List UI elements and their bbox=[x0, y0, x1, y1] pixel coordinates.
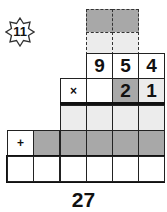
multiplier-digit bbox=[86, 78, 113, 104]
partial-product-cell[interactable] bbox=[138, 130, 165, 156]
partial-product-cell[interactable] bbox=[60, 130, 87, 156]
carry-cell[interactable] bbox=[112, 32, 139, 55]
partial-product-cell[interactable] bbox=[60, 105, 87, 131]
partial-product-cell[interactable] bbox=[86, 105, 113, 131]
partial-product-cell[interactable] bbox=[112, 105, 139, 131]
multiplicand-digit: 9 bbox=[86, 53, 113, 79]
result-label: 27 bbox=[0, 188, 167, 212]
answer-cell[interactable] bbox=[7, 156, 34, 182]
partial-product-cell[interactable] bbox=[112, 130, 139, 156]
answer-cell[interactable] bbox=[86, 156, 113, 182]
partial-product-cell[interactable] bbox=[33, 130, 60, 156]
answer-cell[interactable] bbox=[112, 156, 139, 182]
puzzle-number: 11 bbox=[5, 17, 35, 47]
add-operator: + bbox=[7, 130, 34, 156]
puzzle-number-badge: 11 bbox=[5, 17, 35, 47]
multiplicand-digit: 4 bbox=[138, 53, 165, 79]
multiply-operator: × bbox=[60, 78, 87, 104]
answer-cell[interactable] bbox=[60, 156, 87, 182]
multiplier-digit: 2 bbox=[112, 78, 139, 104]
multiplicand-digit: 5 bbox=[112, 53, 139, 79]
multiplier-digit: 1 bbox=[138, 78, 165, 104]
partial-product-cell[interactable] bbox=[138, 105, 165, 131]
partial-product-cell[interactable] bbox=[86, 130, 113, 156]
answer-cell[interactable] bbox=[33, 156, 60, 182]
carry-cell[interactable] bbox=[86, 32, 113, 55]
answer-cell[interactable] bbox=[138, 156, 165, 182]
